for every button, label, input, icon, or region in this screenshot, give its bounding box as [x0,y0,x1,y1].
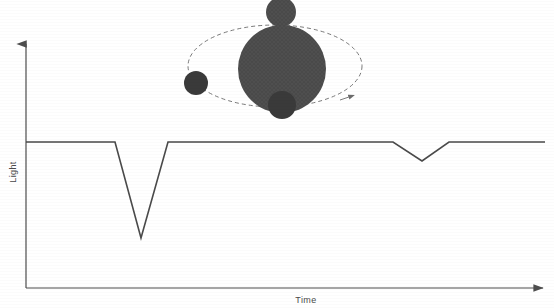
y-axis-label: Light [8,161,18,183]
light-curve-transit-figure: Light Time [0,0,554,308]
planet-bottom [268,91,296,119]
orbit-diagram-group [184,0,362,119]
planet-left [184,71,208,95]
planet-top [266,0,296,27]
orbit-direction-arrow-icon [340,96,352,100]
light-curve-line [26,142,545,238]
x-axis-label: Time [295,295,316,305]
